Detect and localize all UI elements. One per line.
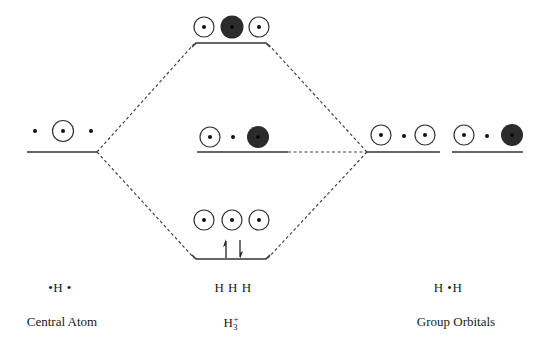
central-atom-orbital bbox=[33, 121, 93, 142]
dot-icon bbox=[202, 25, 206, 29]
dot-icon bbox=[257, 25, 261, 29]
nonbonding-orbital bbox=[200, 126, 269, 148]
group-atoms-formula: H •H bbox=[434, 280, 463, 296]
right-to-top-line bbox=[268, 44, 367, 152]
central-atom-label: Central Atom bbox=[27, 314, 97, 330]
antibonding-orbital bbox=[194, 16, 269, 39]
h3-superscript: + bbox=[233, 314, 238, 324]
dot-icon bbox=[208, 135, 212, 139]
antibonding-level bbox=[192, 43, 270, 47]
group-orbitals-label: Group Orbitals bbox=[417, 314, 495, 330]
dot-icon bbox=[230, 218, 234, 222]
dot-icon bbox=[257, 218, 261, 222]
h3-plus-label: H3+ bbox=[224, 314, 239, 332]
dot-icon bbox=[379, 133, 383, 137]
bonding-level bbox=[192, 255, 270, 259]
h3-main: H bbox=[224, 315, 233, 330]
dot-icon bbox=[423, 133, 427, 137]
h3-atoms-formula: H H H bbox=[214, 280, 251, 296]
dot-icon bbox=[202, 218, 206, 222]
electron-pair bbox=[223, 239, 243, 259]
group-orbital-2 bbox=[454, 124, 523, 146]
right-to-bottom-line bbox=[268, 152, 367, 258]
dot-icon bbox=[230, 25, 234, 29]
dot-icon bbox=[231, 135, 235, 139]
dot-icon bbox=[61, 129, 65, 133]
dot-icon bbox=[462, 133, 466, 137]
dot-icon bbox=[485, 134, 489, 138]
left-to-top-line bbox=[97, 44, 194, 152]
dot-icon bbox=[256, 135, 260, 139]
energy-levels bbox=[27, 43, 523, 259]
dot-icon bbox=[89, 129, 93, 133]
central-atom-formula: •H • bbox=[48, 280, 72, 296]
group-orbital-1 bbox=[371, 125, 435, 145]
dot-icon bbox=[510, 133, 514, 137]
dot-icon bbox=[33, 129, 37, 133]
bonding-orbital bbox=[194, 210, 269, 230]
dot-icon bbox=[402, 134, 406, 138]
mo-diagram bbox=[0, 0, 549, 347]
left-to-bottom-line bbox=[97, 152, 194, 258]
